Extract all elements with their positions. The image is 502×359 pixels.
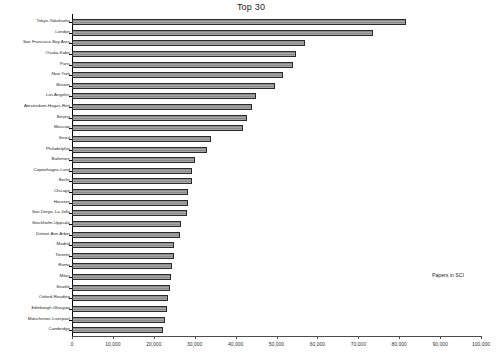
bar — [72, 317, 165, 323]
bar — [72, 285, 170, 291]
y-axis-tick-mark — [69, 150, 72, 151]
y-axis-tick-label: Milan — [0, 273, 70, 279]
x-axis-tick-label: 70,000 — [336, 341, 380, 347]
bar — [72, 30, 373, 36]
y-axis-tick-mark — [69, 118, 72, 119]
bar-row: Berlin — [72, 177, 481, 188]
bar-row: San Diego, La Jolla — [72, 209, 481, 220]
y-axis-tick-mark — [69, 266, 72, 267]
bar — [72, 274, 171, 280]
y-axis-tick-label: Beijing — [0, 113, 70, 119]
y-axis-tick-mark — [69, 160, 72, 161]
bar — [72, 200, 188, 206]
y-axis-tick-mark — [69, 213, 72, 214]
y-axis-tick-mark — [69, 330, 72, 331]
bar — [72, 125, 243, 131]
y-axis-tick-mark — [69, 181, 72, 182]
y-axis-tick-label: Stockholm-Uppsala — [0, 219, 70, 225]
bar — [72, 40, 305, 46]
bar-row: Manchester-Liverpool — [72, 316, 481, 327]
y-axis-tick-mark — [69, 22, 72, 23]
bar-row: Milan — [72, 273, 481, 284]
x-axis-tick-label: 20,000 — [132, 341, 176, 347]
y-axis-tick-label: London — [0, 28, 70, 34]
bar-row: New York — [72, 71, 481, 82]
x-axis-tick-label: 30,000 — [173, 341, 217, 347]
y-axis-tick-mark — [69, 171, 72, 172]
bar — [72, 51, 296, 57]
y-axis-tick-label: Copenhagen-Lund — [0, 166, 70, 172]
bar — [72, 189, 188, 195]
x-axis-tick-mark — [440, 336, 441, 339]
bar-row: Roma — [72, 262, 481, 273]
bar — [72, 157, 195, 163]
bar-row: Los Angeles — [72, 92, 481, 103]
y-axis-tick-label: Edinburgh-Glasgow — [0, 305, 70, 311]
x-axis-tick-label: 90,000 — [418, 341, 462, 347]
bar-row: Copenhagen-Lund — [72, 167, 481, 178]
x-axis-tick-label: 10,000 — [91, 341, 135, 347]
x-axis-tick-label: 40,000 — [214, 341, 258, 347]
bar — [72, 178, 192, 184]
bar — [72, 242, 174, 248]
bar-row: Seattle — [72, 284, 481, 295]
y-axis-tick-mark — [69, 86, 72, 87]
y-axis-tick-label: Moscow — [0, 124, 70, 130]
bar — [72, 104, 252, 110]
y-axis-tick-label: New York — [0, 71, 70, 77]
y-axis-tick-label: Houston — [0, 198, 70, 204]
y-axis-tick-mark — [69, 203, 72, 204]
y-axis-tick-label: Detroit-Ann Arbor — [0, 230, 70, 236]
x-axis-tick-label: 80,000 — [377, 341, 421, 347]
bar — [72, 168, 192, 174]
y-axis-tick-mark — [69, 192, 72, 193]
bar — [72, 136, 211, 142]
bar — [72, 115, 247, 121]
bar-row: Amsterdam-Hagus-Rott — [72, 103, 481, 114]
bar-row: London — [72, 29, 481, 40]
y-axis-tick-label: Osaka-Kobe — [0, 49, 70, 55]
x-axis-tick-label: 60,000 — [295, 341, 339, 347]
x-axis-tick-mark — [317, 336, 318, 339]
y-axis-tick-mark — [69, 33, 72, 34]
bar-row: San Francisco Bay Area — [72, 39, 481, 50]
bar — [72, 83, 275, 89]
y-axis-tick-mark — [69, 107, 72, 108]
x-axis-tick-mark — [113, 336, 114, 339]
y-axis-tick-mark — [69, 277, 72, 278]
y-axis-tick-label: Manchester-Liverpool — [0, 315, 70, 321]
y-axis-tick-label: Seattle — [0, 283, 70, 289]
bar — [72, 306, 167, 312]
y-axis-tick-mark — [69, 235, 72, 236]
x-axis-tick-label: 50,000 — [255, 341, 299, 347]
bar — [72, 147, 207, 153]
y-axis-tick-label: Madrid — [0, 241, 70, 247]
bar-row: Oxford-Reading — [72, 294, 481, 305]
y-axis-tick-mark — [69, 298, 72, 299]
bar-row: Detroit-Ann Arbor — [72, 231, 481, 242]
y-axis-tick-label: Cambridge — [0, 326, 70, 332]
y-axis-tick-mark — [69, 256, 72, 257]
y-axis-tick-label: Baltimore — [0, 156, 70, 162]
y-axis-tick-label: Seoul — [0, 134, 70, 140]
x-axis-tick-label: 0 — [50, 341, 94, 347]
plot-area: Tokyo-YokohamaLondonSan Francisco Bay Ar… — [72, 16, 481, 335]
bar-row: Beijing — [72, 114, 481, 125]
y-axis-tick-label: Berlin — [0, 177, 70, 183]
y-axis-tick-label: Amsterdam-Hagus-Rott — [0, 103, 70, 109]
y-axis-tick-mark — [69, 320, 72, 321]
bar-row: Boston — [72, 82, 481, 93]
y-axis-tick-mark — [69, 75, 72, 76]
y-axis-tick-label: Roma — [0, 262, 70, 268]
x-axis-tick-mark — [399, 336, 400, 339]
y-axis-tick-mark — [69, 245, 72, 246]
bar-row: Philadelphia — [72, 146, 481, 157]
bar — [72, 93, 256, 99]
bar-row: Houston — [72, 199, 481, 210]
y-axis-tick-label: San Diego, La Jolla — [0, 209, 70, 215]
bar — [72, 232, 180, 238]
y-axis-tick-mark — [69, 96, 72, 97]
bar — [72, 327, 163, 333]
y-axis-tick-mark — [69, 43, 72, 44]
y-axis-tick-label: Chicago — [0, 188, 70, 194]
